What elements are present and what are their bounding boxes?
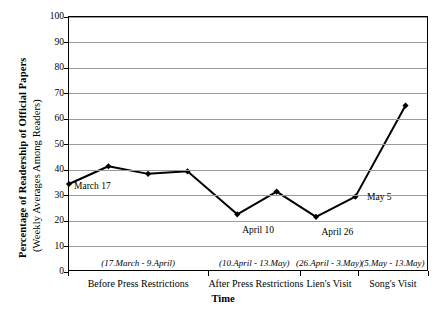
y-axis-tick-label: 90 xyxy=(40,37,64,47)
y-axis-tick-label: 10 xyxy=(40,241,64,251)
x-axis-range-label: (10.April - 13.May) xyxy=(208,258,300,268)
data-point-marker[interactable] xyxy=(66,181,72,187)
data-point-marker[interactable] xyxy=(145,171,151,177)
gridline xyxy=(69,221,427,222)
gridline xyxy=(69,17,427,18)
y-axis-tick-label: 70 xyxy=(40,88,64,98)
y-axis-tick-label: 60 xyxy=(40,113,64,123)
data-point-annotation: March 17 xyxy=(74,181,111,191)
data-point-annotation: April 10 xyxy=(242,225,274,235)
y-axis-tick xyxy=(64,42,69,43)
x-axis-group-labels: Before Press RestrictionsAfter Press Res… xyxy=(60,278,440,292)
gridline xyxy=(69,144,427,145)
data-point-annotation: May 5 xyxy=(367,192,392,202)
data-point-annotation: April 26 xyxy=(321,227,353,237)
y-axis-tick xyxy=(64,144,69,145)
y-axis-tick-label: 30 xyxy=(40,190,64,200)
x-axis-group-label: Before Press Restrictions xyxy=(68,278,208,289)
y-axis-tick-label: 100 xyxy=(40,11,64,21)
x-axis-title: Time xyxy=(0,293,446,304)
series-line xyxy=(69,106,406,217)
gridline xyxy=(69,246,427,247)
x-axis-tick xyxy=(428,271,429,276)
x-axis-range-labels: (17.March - 9.April)(10.April - 13.May)(… xyxy=(68,258,428,272)
chart-container: Percentage of Readership of Official Pap… xyxy=(0,0,446,315)
y-axis-tick xyxy=(64,195,69,196)
gridline xyxy=(69,119,427,120)
y-axis-tick xyxy=(64,221,69,222)
y-axis-tick-label: 20 xyxy=(40,215,64,225)
x-axis-group-label: Song's Visit xyxy=(348,278,438,289)
x-axis-range-label: (17.March - 9.April) xyxy=(68,258,208,268)
y-axis-tick xyxy=(64,17,69,18)
y-axis-tick xyxy=(64,170,69,171)
y-axis-tick-label: 50 xyxy=(40,139,64,149)
y-axis-tick-labels: 0102030405060708090100 xyxy=(38,16,64,271)
y-axis-title: Percentage of Readership of Official Pap… xyxy=(17,58,28,258)
y-axis-tick xyxy=(64,246,69,247)
y-axis-tick xyxy=(64,68,69,69)
gridline xyxy=(69,93,427,94)
plot-area: March 17April 10April 26May 5 xyxy=(68,16,428,271)
gridline xyxy=(69,68,427,69)
y-axis-tick-label: 80 xyxy=(40,62,64,72)
y-axis-tick-label: 0 xyxy=(40,266,64,276)
data-point-marker[interactable] xyxy=(105,163,111,169)
gridline xyxy=(69,170,427,171)
y-axis-tick xyxy=(64,93,69,94)
y-axis-tick-label: 40 xyxy=(40,164,64,174)
y-axis-tick xyxy=(64,119,69,120)
gridline xyxy=(69,42,427,43)
x-axis-range-label: (5.May - 13.May) xyxy=(353,258,433,268)
